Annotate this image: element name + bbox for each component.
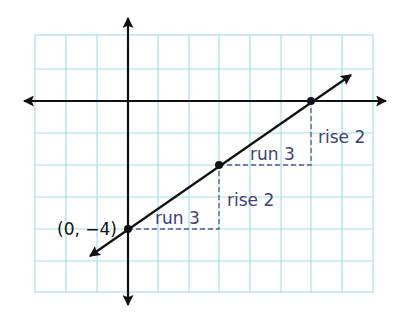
rise-label-2: rise 2 [318,127,365,147]
point-3-neg2 [215,161,223,169]
intercept-label: (0, −4) [57,219,117,239]
run-label-1: run 3 [155,208,200,228]
point-y-intercept [124,225,132,233]
coordinate-graph: (0, −4) run 3 rise 2 run 3 rise 2 [0,0,405,323]
grid [35,35,373,292]
rise-label-1: rise 2 [227,190,274,210]
point-x-intercept [307,97,315,105]
run-label-2: run 3 [250,144,295,164]
